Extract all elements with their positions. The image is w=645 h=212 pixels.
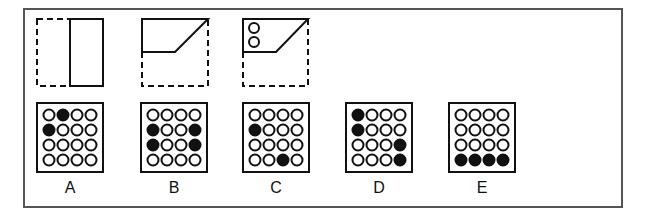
hole-empty: [86, 110, 97, 121]
hole-empty: [367, 155, 378, 166]
hole-empty: [484, 125, 495, 136]
hole-empty: [264, 125, 275, 136]
option-d[interactable]: [346, 103, 412, 172]
hole-empty: [162, 125, 173, 136]
hole-filled: [148, 125, 159, 136]
hole-empty: [58, 140, 69, 151]
hole-filled: [190, 125, 201, 136]
hole-empty: [484, 110, 495, 121]
hole-empty: [470, 140, 481, 151]
punched-hole: [249, 37, 259, 47]
option-label-b[interactable]: B: [141, 179, 207, 197]
hole-empty: [250, 110, 261, 121]
hole-empty: [72, 125, 83, 136]
option-label-d[interactable]: D: [346, 179, 412, 197]
hole-empty: [264, 140, 275, 151]
hole-empty: [381, 125, 392, 136]
hole-empty: [176, 140, 187, 151]
hole-filled: [498, 155, 509, 166]
folded-paper-shape: [70, 19, 103, 86]
option-b[interactable]: [141, 103, 207, 172]
hole-empty: [162, 155, 173, 166]
answer-options: [37, 103, 515, 172]
hole-empty: [292, 125, 303, 136]
option-label-a[interactable]: A: [37, 179, 103, 197]
hole-empty: [484, 140, 495, 151]
hole-empty: [292, 155, 303, 166]
hole-empty: [498, 125, 509, 136]
hole-empty: [292, 140, 303, 151]
hole-empty: [190, 110, 201, 121]
hole-empty: [58, 125, 69, 136]
hole-empty: [353, 155, 364, 166]
hole-empty: [367, 140, 378, 151]
hole-empty: [470, 110, 481, 121]
hole-empty: [395, 110, 406, 121]
hole-empty: [250, 140, 261, 151]
hole-filled: [278, 155, 289, 166]
hole-empty: [176, 155, 187, 166]
hole-filled: [353, 110, 364, 121]
hole-empty: [381, 155, 392, 166]
hole-filled: [395, 155, 406, 166]
hole-filled: [250, 125, 261, 136]
hole-empty: [162, 140, 173, 151]
hole-empty: [176, 125, 187, 136]
hole-empty: [278, 140, 289, 151]
folded-paper-shape: [142, 19, 208, 52]
hole-filled: [470, 155, 481, 166]
hole-filled: [58, 110, 69, 121]
hole-empty: [292, 110, 303, 121]
hole-filled: [190, 140, 201, 151]
hole-empty: [58, 155, 69, 166]
hole-filled: [148, 140, 159, 151]
fold-step-2: [142, 19, 208, 86]
hole-empty: [86, 155, 97, 166]
hole-empty: [278, 110, 289, 121]
punched-hole: [249, 23, 259, 33]
hole-empty: [498, 110, 509, 121]
fold-step-1: [37, 19, 103, 86]
hole-empty: [456, 125, 467, 136]
hole-empty: [190, 155, 201, 166]
hole-empty: [470, 125, 481, 136]
option-label-c[interactable]: C: [243, 179, 309, 197]
hole-empty: [381, 140, 392, 151]
hole-empty: [72, 140, 83, 151]
hole-empty: [148, 110, 159, 121]
option-a[interactable]: [37, 103, 103, 172]
hole-empty: [162, 110, 173, 121]
hole-empty: [367, 125, 378, 136]
hole-empty: [72, 110, 83, 121]
hole-empty: [176, 110, 187, 121]
hole-filled: [44, 125, 55, 136]
hole-empty: [456, 110, 467, 121]
hole-empty: [86, 140, 97, 151]
hole-empty: [44, 110, 55, 121]
fold-step-3: [243, 19, 308, 86]
hole-empty: [72, 155, 83, 166]
hole-empty: [264, 110, 275, 121]
hole-empty: [148, 155, 159, 166]
hole-empty: [367, 110, 378, 121]
hole-empty: [456, 140, 467, 151]
hole-empty: [44, 140, 55, 151]
hole-filled: [395, 140, 406, 151]
hole-empty: [278, 125, 289, 136]
hole-empty: [86, 125, 97, 136]
option-label-e[interactable]: E: [449, 179, 515, 197]
hole-filled: [484, 155, 495, 166]
hole-empty: [264, 155, 275, 166]
hole-empty: [353, 140, 364, 151]
hole-empty: [395, 125, 406, 136]
hole-filled: [353, 125, 364, 136]
hole-filled: [456, 155, 467, 166]
hole-empty: [250, 155, 261, 166]
option-c[interactable]: [243, 103, 309, 172]
hole-empty: [44, 155, 55, 166]
hole-empty: [381, 110, 392, 121]
option-e[interactable]: [449, 103, 515, 172]
hole-empty: [498, 140, 509, 151]
